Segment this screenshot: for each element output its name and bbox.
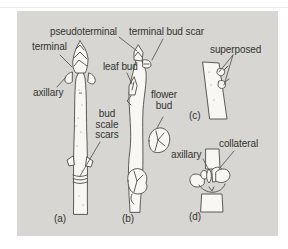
twig-d-stem-upper	[206, 149, 220, 169]
leader-terminal-bud-scar	[152, 39, 163, 60]
label-axillary-a: axillary	[33, 88, 63, 99]
label-axillary-d: axillary	[171, 150, 201, 161]
label-leaf-bud: leaf bud	[103, 62, 138, 73]
collateral-bud-center	[207, 170, 212, 183]
leader-terminal	[60, 55, 72, 67]
label-bud-scale-scars: bud scale scars	[91, 109, 123, 141]
twig-c-drawing	[203, 62, 229, 119]
leader-flower-bud	[157, 117, 163, 128]
leader-axillary-a	[57, 77, 66, 87]
caption-b: (b)	[122, 214, 134, 225]
caption-c: (c)	[189, 111, 200, 122]
axillary-bud-right	[88, 73, 95, 84]
superposed-bud-lower	[218, 79, 229, 88]
leader-collateral	[219, 151, 234, 169]
caption-d: (d)	[189, 212, 201, 223]
flower-bud-shape	[149, 128, 170, 153]
leader-pseudoterminal	[119, 37, 137, 51]
caption-a: (a)	[54, 214, 66, 225]
twig-a-mid-stub-left	[67, 156, 74, 166]
terminal-bud-scar-shape	[143, 60, 151, 68]
axillary-bud-left	[65, 72, 72, 83]
label-pseudoterminal: pseudoterminal	[50, 27, 117, 38]
collateral-bud-far-right	[216, 169, 230, 183]
twig-d-stem-lower	[201, 194, 223, 212]
label-terminal: terminal	[32, 42, 67, 53]
label-terminal-bud-scar: terminal bud scar	[129, 27, 204, 38]
label-collateral: collateral	[219, 139, 258, 150]
twig-a-mid-stub-right	[86, 157, 93, 167]
label-flower-bud: flower bud	[145, 90, 183, 111]
label-superposed: superposed	[210, 45, 261, 56]
